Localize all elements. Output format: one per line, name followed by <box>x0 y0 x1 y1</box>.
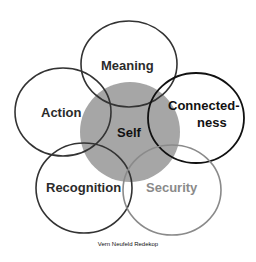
self-label: Self <box>117 125 141 140</box>
connectedness-label: Connected- <box>168 98 240 113</box>
connectedness-label-line2: ness <box>197 115 227 130</box>
security-label: Security <box>146 180 197 195</box>
credit-text: Vern Neufeld Redekop <box>0 241 256 247</box>
meaning-label: Meaning <box>101 58 154 73</box>
action-label: Action <box>41 105 81 120</box>
recognition-label: Recognition <box>46 180 121 195</box>
